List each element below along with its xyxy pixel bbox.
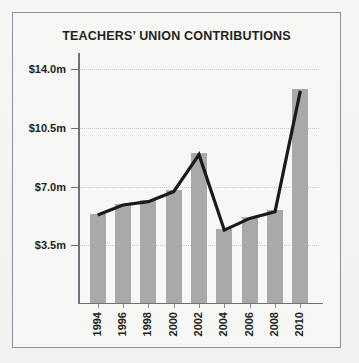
y-axis-tick-mark [71,245,78,246]
x-axis-tick-mark [224,304,225,308]
x-axis-tick-mark [199,304,200,308]
y-axis-tick-label: $14.0m [29,64,66,75]
bar-2002 [191,153,207,302]
x-axis-tick-label: 2008 [269,312,280,336]
x-axis-tick-label: 2002 [193,312,204,336]
x-axis-line [78,303,323,305]
x-axis-tick-mark [148,304,149,308]
plot-area: $3.5m$7.0m$10.5m$14.0m 19941996199820002… [71,59,319,304]
x-axis-tick-mark [275,304,276,308]
bar-2000 [166,190,182,302]
bar-1994 [90,214,106,303]
y-axis-line [78,53,80,304]
y-axis-tick-mark [71,69,78,70]
x-axis-tick-mark [98,304,99,308]
x-axis-tick-mark [123,304,124,308]
gridline [79,128,319,130]
x-axis-tick-label: 2006 [244,312,255,336]
bar-2004 [216,229,232,303]
bar-1996 [115,204,131,303]
y-axis-tick-label: $10.5m [29,122,66,133]
gridline [79,69,319,71]
chart-figure-frame: TEACHERS’ UNION CONTRIBUTIONS $3.5m$7.0m… [12,12,341,348]
x-axis-tick-mark [300,304,301,308]
chart-title: TEACHERS’ UNION CONTRIBUTIONS [13,29,340,43]
x-axis-tick-label: 2000 [168,312,179,336]
y-axis-tick-label: $3.5m [35,240,66,251]
x-axis-tick-label: 1996 [117,312,128,336]
y-axis-tick-label: $7.0m [35,181,66,192]
x-axis-tick-label: 1994 [92,312,103,336]
x-axis-tick-mark [250,304,251,308]
x-axis-tick-mark [174,304,175,308]
y-axis-tick-mark [71,187,78,188]
bar-2010 [292,89,308,302]
x-axis-tick-label: 2004 [218,312,229,336]
x-axis-tick-label: 2010 [294,312,305,336]
bar-1998 [140,200,156,302]
bar-2008 [267,210,283,302]
y-axis-tick-mark [71,128,78,129]
x-axis-tick-label: 1998 [142,312,153,336]
bar-2006 [242,217,258,303]
